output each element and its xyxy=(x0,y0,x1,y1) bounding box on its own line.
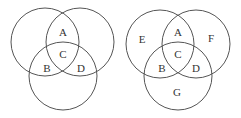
venn-diagrams-canvas: A C B D E A F C B D G xyxy=(0,0,241,118)
right-venn-diagram: E A F C B D G xyxy=(126,10,230,110)
left-venn-label-b: B xyxy=(43,62,50,74)
left-venn-label-d: D xyxy=(77,62,85,74)
right-venn-label-f: F xyxy=(208,32,214,44)
left-venn-label-a: A xyxy=(59,26,67,38)
right-venn-label-b: B xyxy=(158,62,165,74)
left-venn-diagram: A C B D xyxy=(11,8,114,110)
left-venn-label-c: C xyxy=(59,48,66,60)
right-venn-label-c: C xyxy=(174,48,181,60)
right-venn-label-e: E xyxy=(139,33,146,45)
right-venn-label-g: G xyxy=(173,86,181,98)
right-venn-label-d: D xyxy=(192,62,200,74)
right-venn-label-a: A xyxy=(174,26,182,38)
